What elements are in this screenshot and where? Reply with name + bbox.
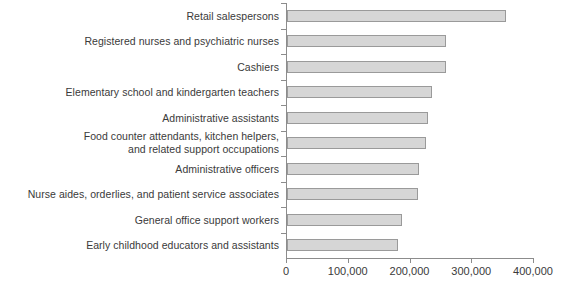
y-axis-tick — [281, 182, 286, 183]
x-axis-tick-mark — [410, 258, 411, 263]
bar — [287, 61, 446, 73]
y-axis-tick — [281, 54, 286, 55]
y-axis-tick — [281, 80, 286, 81]
bar-row: Food counter attendants, kitchen helpers… — [0, 131, 567, 157]
y-axis-tick — [281, 207, 286, 208]
category-label: Elementary school and kindergarten teach… — [66, 86, 279, 99]
bar-row: Early childhood educators and assistants — [0, 233, 567, 259]
y-axis-tick — [281, 131, 286, 132]
category-label: Nurse aides, orderlies, and patient serv… — [28, 188, 279, 201]
bar — [287, 112, 428, 124]
category-label: Cashiers — [237, 60, 279, 73]
bar — [287, 86, 432, 98]
x-axis-tick-mark — [286, 258, 287, 263]
category-label: Retail salespersons — [186, 9, 279, 22]
x-axis-tick-label: 200,000 — [390, 265, 430, 278]
category-label: Food counter attendants, kitchen helpers… — [84, 131, 279, 156]
y-axis-tick — [281, 29, 286, 30]
y-axis-tick — [281, 105, 286, 106]
bar — [287, 163, 419, 175]
category-label: Administrative officers — [175, 162, 279, 175]
x-axis-tick-label: 100,000 — [328, 265, 368, 278]
x-axis-ticks: 0100,000200,000300,000400,000 — [0, 258, 567, 282]
bar-row: Elementary school and kindergarten teach… — [0, 80, 567, 106]
bar-row: Cashiers — [0, 54, 567, 80]
bar — [287, 214, 402, 226]
x-axis-tick-label: 300,000 — [451, 265, 491, 278]
x-axis-tick-mark — [471, 258, 472, 263]
bar — [287, 10, 506, 22]
y-axis-tick — [281, 3, 286, 4]
x-axis-tick-label: 400,000 — [513, 265, 553, 278]
bar-row: General office support workers — [0, 207, 567, 233]
bar — [287, 239, 398, 251]
bar — [287, 35, 446, 47]
y-axis-tick — [281, 233, 286, 234]
bar-row: Retail salespersons — [0, 3, 567, 29]
x-axis-tick-mark — [348, 258, 349, 263]
x-axis-tick-label: 0 — [283, 265, 289, 278]
bar-row: Administrative officers — [0, 156, 567, 182]
bar — [287, 188, 418, 200]
bar-row: Registered nurses and psychiatric nurses — [0, 29, 567, 55]
x-axis-tick-mark — [533, 258, 534, 263]
horizontal-bar-chart: Retail salespersonsRegistered nurses and… — [0, 0, 567, 282]
y-axis-tick — [281, 156, 286, 157]
bar-rows-container: Retail salespersonsRegistered nurses and… — [0, 3, 567, 258]
bar-row: Nurse aides, orderlies, and patient serv… — [0, 182, 567, 208]
category-label: Registered nurses and psychiatric nurses — [84, 35, 279, 48]
bar — [287, 137, 426, 149]
category-label: Administrative assistants — [162, 111, 279, 124]
bar-row: Administrative assistants — [0, 105, 567, 131]
category-label: Early childhood educators and assistants — [86, 239, 279, 252]
category-label: General office support workers — [135, 213, 279, 226]
